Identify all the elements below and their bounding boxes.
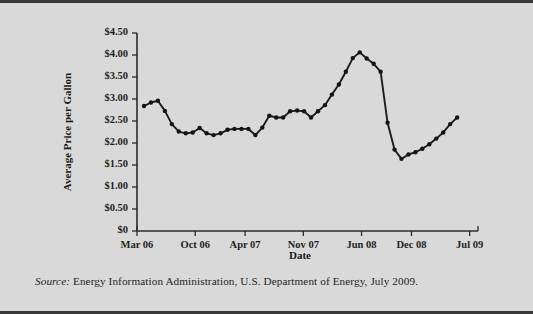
data-point-marker [406,152,410,156]
data-point-marker [358,50,362,54]
data-point-marker [232,127,236,131]
data-point-marker [392,147,396,151]
data-point-marker [253,133,257,137]
data-point-marker [267,114,271,118]
data-point-marker [191,130,195,134]
data-point-marker [149,100,153,104]
data-point-marker [399,157,403,161]
data-point-marker [204,131,208,135]
y-tick-label: $0.50 [104,202,128,213]
x-tick-label: Apr 07 [230,239,261,250]
y-tick-label: $4.00 [104,48,128,59]
data-point-marker [170,122,174,126]
price-series [142,50,460,161]
data-point-marker [427,142,431,146]
data-point-marker [413,150,417,154]
chart-plot-area: $0$0.50$1.00$1.50$2.00$2.50$3.00$3.50$4.… [0,3,533,265]
data-point-marker [344,70,348,74]
data-point-marker [302,109,306,113]
source-note: Source: Energy Information Administratio… [35,275,505,287]
data-point-marker [211,133,215,137]
y-axis-title: Average Price per Gallon [61,73,73,191]
data-point-marker [323,103,327,107]
x-tick-label: Jun 08 [347,239,377,250]
data-point-marker [378,70,382,74]
data-point-marker [337,82,341,86]
data-point-marker [295,108,299,112]
data-point-marker [309,115,313,119]
data-point-marker [218,131,222,135]
data-point-marker [316,109,320,113]
data-point-marker [441,130,445,134]
y-tick-label: $0 [118,224,129,235]
x-axis-title: Date [289,249,311,261]
data-point-marker [364,56,368,60]
y-tick-label: $1.50 [104,158,128,169]
data-point-marker [225,128,229,132]
y-tick-label: $3.50 [104,70,128,81]
line-chart-svg: $0$0.50$1.00$1.50$2.00$2.50$3.00$3.50$4.… [0,3,533,265]
y-tick-label: $2.00 [104,136,128,147]
data-point-marker [163,109,167,113]
data-point-marker [184,131,188,135]
y-tick-label: $4.50 [104,26,128,37]
data-point-marker [434,136,438,140]
data-point-marker [274,115,278,119]
data-point-marker [455,115,459,119]
x-tick-label: Mar 06 [121,239,154,250]
data-point-marker [351,56,355,60]
data-point-marker [142,104,146,108]
data-point-marker [246,127,250,131]
chart-figure: $0$0.50$1.00$1.50$2.00$2.50$3.00$3.50$4.… [0,0,533,314]
data-point-marker [260,125,264,129]
data-point-marker [281,115,285,119]
data-point-marker [371,62,375,66]
data-point-marker [330,92,334,96]
data-point-marker [156,99,160,103]
x-tick-label: Oct 06 [180,239,209,250]
y-tick-label: $3.00 [104,92,128,103]
data-point-marker [239,127,243,131]
source-text: Energy Information Administration, U.S. … [70,275,418,287]
y-axis: $0$0.50$1.00$1.50$2.00$2.50$3.00$3.50$4.… [104,26,137,235]
data-point-marker [197,126,201,130]
data-point-marker [385,121,389,125]
y-tick-label: $2.50 [104,114,128,125]
price-line [144,52,457,158]
data-point-marker [177,129,181,133]
y-tick-label: $1.00 [104,180,128,191]
data-point-marker [288,109,292,113]
x-axis: Mar 06Oct 06Apr 07Nov 07Jun 08Dec 08Jul … [121,226,484,250]
data-point-marker [448,122,452,126]
source-label: Source: [35,275,70,287]
data-point-marker [420,147,424,151]
x-tick-label: Jul 09 [456,239,483,250]
x-tick-label: Dec 08 [396,239,426,250]
